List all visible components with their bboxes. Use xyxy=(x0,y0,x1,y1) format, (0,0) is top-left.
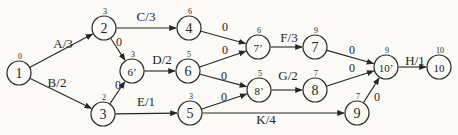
node-label-n6p: 6’ xyxy=(127,66,136,78)
edge-activity-label-n1-n3: B/2 xyxy=(48,75,67,90)
node-label-n6: 6 xyxy=(185,64,192,79)
node-superscript-n1: 0 xyxy=(18,52,22,61)
node-label-n1: 1 xyxy=(16,66,23,81)
node-label-n5: 5 xyxy=(187,106,194,121)
activity-network-diagram: 102332466’365537’6798’5879710’91010 A/3B… xyxy=(0,0,458,135)
node-superscript-n7: 9 xyxy=(314,26,318,35)
nodes-layer: 102332466’365537’6798’5879710’91010 xyxy=(7,7,451,127)
edge-zero-label-n7-n10p: 0 xyxy=(349,43,355,57)
node-superscript-n5: 3 xyxy=(189,92,193,101)
edge-zero-label-n6-n8p: 0 xyxy=(221,69,227,83)
node-superscript-n2: 3 xyxy=(103,7,107,16)
edge-zero-label-n4-n7p: 0 xyxy=(222,20,228,34)
edge-zero-label-n3-n6p: 0 xyxy=(115,78,121,92)
node-label-n4: 4 xyxy=(186,21,193,36)
node-superscript-n6p: 3 xyxy=(131,50,135,59)
node-label-n7: 7 xyxy=(312,40,319,55)
edge-activity-label-n3-n5: E/1 xyxy=(137,94,155,109)
node-label-n8p: 8’ xyxy=(254,85,263,97)
edge-zero-label-n9-n10p: 0 xyxy=(374,90,380,104)
node-superscript-n10p: 9 xyxy=(385,46,389,55)
node-superscript-n10: 10 xyxy=(436,46,444,55)
edge-zero-label-n6-n7p: 0 xyxy=(222,43,228,57)
node-superscript-n6: 5 xyxy=(187,50,191,59)
node-superscript-n8: 7 xyxy=(314,69,318,78)
edge-activity-label-n5-n9: K/4 xyxy=(256,112,276,127)
node-label-n2: 2 xyxy=(101,21,108,36)
edges-layer xyxy=(30,28,426,114)
node-superscript-n8p: 5 xyxy=(258,69,262,78)
edge-zero-label-n2-n6p: 0 xyxy=(116,35,122,49)
edge-n3-n5 xyxy=(116,113,178,114)
edge-zero-label-n5-n8p: 0 xyxy=(221,90,227,104)
node-label-n8: 8 xyxy=(312,83,319,98)
edge-activity-label-n2-n4: C/3 xyxy=(137,9,156,24)
scanned-figure-page: 102332466’365537’6798’5879710’91010 A/3B… xyxy=(0,0,458,135)
node-label-n10p: 10’ xyxy=(379,62,394,74)
node-label-n9: 9 xyxy=(354,106,361,121)
node-superscript-n9: 7 xyxy=(356,92,360,101)
edge-activity-label-n1-n2: A/3 xyxy=(53,36,73,51)
edge-activity-label-n8p-n8: G/2 xyxy=(278,68,298,83)
node-label-n7p: 7’ xyxy=(253,42,262,54)
edge-zero-label-n8-n10p: 0 xyxy=(349,61,355,75)
node-superscript-n7p: 6 xyxy=(257,26,261,35)
edge-activity-label-n7p-n7: F/3 xyxy=(280,30,297,45)
node-label-n10: 10 xyxy=(434,62,446,74)
edge-activity-label-n10p-n10: H/1 xyxy=(405,53,425,68)
node-label-n3: 3 xyxy=(100,107,107,122)
node-superscript-n4: 6 xyxy=(188,7,192,16)
edge-activity-label-n6p-n6: D/2 xyxy=(152,52,172,67)
node-superscript-n3: 2 xyxy=(102,93,106,102)
